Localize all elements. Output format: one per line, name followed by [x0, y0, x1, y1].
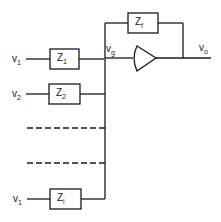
- zf-label: Zf: [135, 17, 143, 31]
- label-sub: 1: [18, 199, 22, 206]
- z2-label: Z2: [56, 88, 66, 102]
- impedance-zi-box: [50, 189, 81, 209]
- output-vo-label: vo: [199, 43, 208, 57]
- label-sub: 1: [17, 59, 21, 66]
- label-sub: i: [63, 198, 65, 205]
- node-vg-label: vg: [106, 44, 115, 58]
- z1-label: Z1: [57, 53, 67, 67]
- input-2-voltage-label: v2: [12, 89, 21, 103]
- input-1-voltage-label: v1: [12, 54, 21, 68]
- label-sub: 2: [62, 93, 66, 100]
- label-sub: 2: [17, 94, 21, 101]
- zi-label: Zi: [57, 193, 65, 207]
- amplifier-triangle: [134, 46, 156, 71]
- input-i-voltage-label: v1: [13, 194, 22, 208]
- label-sub: f: [141, 22, 143, 29]
- label-sub: 1: [63, 58, 67, 65]
- circuit-wires: [0, 0, 221, 222]
- label-sub: g: [111, 49, 115, 56]
- label-sub: o: [204, 48, 208, 55]
